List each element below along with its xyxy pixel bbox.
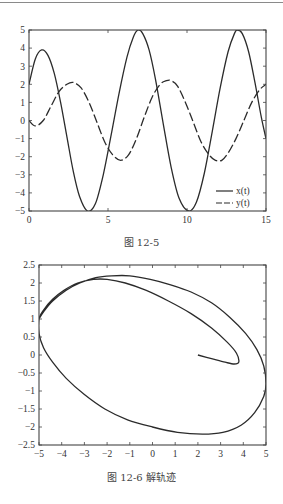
x-tick-label: −4 bbox=[57, 449, 67, 459]
x-tick-label: 5 bbox=[264, 449, 269, 459]
x-tick-label: 1 bbox=[173, 449, 178, 459]
y-tick-label: −1 bbox=[25, 386, 35, 396]
x-tick-label: −1 bbox=[125, 449, 135, 459]
x-tick-label: −3 bbox=[79, 449, 89, 459]
x-tick-label: 4 bbox=[241, 449, 246, 459]
chart2-axes-frame bbox=[39, 265, 266, 445]
y-tick-label: 0.5 bbox=[23, 332, 35, 342]
y-tick-label: −1.5 bbox=[18, 404, 35, 414]
y-tick-label: 0 bbox=[30, 350, 35, 360]
y-tick-label: 2.5 bbox=[23, 260, 35, 270]
y-tick-label: −2 bbox=[25, 422, 35, 432]
chart2-plot-area bbox=[38, 275, 266, 434]
y-tick-label: 2 bbox=[30, 278, 35, 288]
y-tick-label: 1 bbox=[30, 314, 35, 324]
series-line-trajectory bbox=[38, 275, 266, 434]
x-tick-label: −2 bbox=[102, 449, 112, 459]
y-tick-label: −0.5 bbox=[18, 368, 35, 378]
x-tick-label: 3 bbox=[218, 449, 223, 459]
x-tick-label: −5 bbox=[34, 449, 44, 459]
y-tick-label: 1.5 bbox=[23, 296, 35, 306]
figure-caption-12-6: 图 12-6 解轨迹 bbox=[0, 469, 283, 484]
x-tick-label: 2 bbox=[196, 449, 201, 459]
phase-trajectory-chart: −5−4−3−2−10123452.521.510.50−0.5−1−1.5−2… bbox=[0, 0, 283, 504]
y-tick-label: −2.5 bbox=[18, 440, 35, 450]
x-tick-label: 0 bbox=[150, 449, 155, 459]
